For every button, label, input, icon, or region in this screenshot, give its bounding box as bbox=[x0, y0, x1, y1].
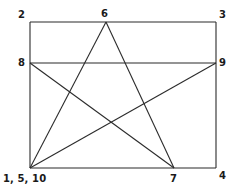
rectangle-outline bbox=[30, 22, 216, 168]
segment-7-to-8 bbox=[30, 63, 174, 168]
vertex-label-7: 7 bbox=[170, 173, 177, 184]
vertex-label-8: 8 bbox=[18, 57, 25, 68]
vertex-label-2: 2 bbox=[18, 9, 25, 20]
figure-root: 2 6 3 8 9 1, 5, 10 7 4 bbox=[0, 0, 238, 196]
vertex-label-6: 6 bbox=[101, 8, 108, 19]
vertex-label-4: 4 bbox=[219, 170, 226, 181]
vertex-label-1-5-10: 1, 5, 10 bbox=[3, 173, 46, 184]
segment-6-to-7 bbox=[106, 22, 174, 168]
vertex-label-3: 3 bbox=[219, 9, 226, 20]
star-polygon-diagram bbox=[0, 0, 238, 196]
star-path bbox=[30, 22, 216, 168]
vertex-label-9: 9 bbox=[219, 57, 226, 68]
